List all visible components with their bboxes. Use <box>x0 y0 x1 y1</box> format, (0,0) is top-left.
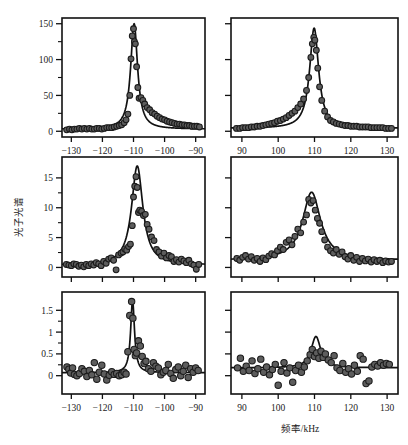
data-point <box>69 365 75 371</box>
data-point <box>129 33 135 39</box>
panel-middle-left: 051015 <box>44 157 206 282</box>
data-point <box>137 343 143 349</box>
data-point <box>301 219 307 225</box>
multi-panel-spectrum-chart: −130−120−110−100−90050100150901001101201… <box>0 0 408 445</box>
data-point <box>304 88 310 94</box>
data-point <box>143 358 149 364</box>
data-point <box>123 371 129 377</box>
x-tick-label: −90 <box>188 146 203 156</box>
data-point <box>315 65 321 71</box>
data-point <box>123 117 129 123</box>
data-point <box>389 259 395 265</box>
panel-bottom-left: −130−120−110−100−9000.511.5 <box>41 292 205 413</box>
data-point <box>310 198 316 204</box>
y-tick-label: 1.5 <box>41 306 53 316</box>
data-point <box>308 55 314 61</box>
x-tick-label: 120 <box>344 403 359 413</box>
data-point <box>328 359 334 365</box>
data-point <box>131 26 137 32</box>
x-tick-label: 100 <box>271 403 286 413</box>
data-point <box>351 362 357 368</box>
data-point <box>322 108 328 114</box>
data-point <box>313 47 319 53</box>
data-point <box>128 298 134 304</box>
data-point <box>132 41 138 47</box>
data-point <box>180 368 186 374</box>
panel-bottom-right: 90100110120130 <box>225 292 398 413</box>
data-point <box>142 211 148 217</box>
data-point <box>331 352 337 358</box>
x-tick-label: −110 <box>124 146 144 156</box>
data-point <box>301 96 307 102</box>
y-tick-label: 50 <box>44 91 54 101</box>
data-point <box>195 367 201 373</box>
y-tick-label: 5 <box>48 233 53 243</box>
y-tick-label: 0 <box>48 263 53 273</box>
figure-container: −130−120−110−100−90050100150901001101201… <box>0 0 408 445</box>
data-point <box>94 376 100 382</box>
data-point <box>135 85 141 91</box>
x-tick-label: −100 <box>155 146 175 156</box>
data-point <box>319 229 325 235</box>
data-point <box>319 98 325 104</box>
y-tick-label: 0 <box>48 127 53 137</box>
y-tick-label: 15 <box>44 173 54 183</box>
data-point <box>304 358 310 364</box>
data-point <box>298 230 304 236</box>
data-point <box>170 375 176 381</box>
data-points <box>64 298 202 383</box>
x-tick-label: −130 <box>62 146 82 156</box>
data-point <box>258 356 264 362</box>
data-point <box>389 125 395 131</box>
x-tick-label: 90 <box>237 403 247 413</box>
data-point <box>249 358 255 364</box>
data-point <box>111 257 117 263</box>
data-point <box>146 226 152 232</box>
y-tick-label: 10 <box>44 203 54 213</box>
panel-frame <box>231 292 398 394</box>
panel-top-left: −130−120−110−100−90050100150 <box>39 18 205 156</box>
data-point <box>125 349 131 355</box>
data-point <box>234 365 240 371</box>
data-point <box>360 356 366 362</box>
data-point <box>255 366 261 372</box>
data-point <box>165 361 171 367</box>
data-point <box>125 111 131 117</box>
data-point <box>322 351 328 357</box>
data-point <box>196 262 202 268</box>
data-point <box>128 56 134 62</box>
panel-top-right: 90100110120130 <box>225 18 398 156</box>
data-point <box>304 212 310 218</box>
data-point <box>99 362 105 368</box>
data-point <box>151 238 157 244</box>
data-point <box>133 174 139 180</box>
data-point <box>91 359 97 365</box>
data-point <box>148 368 154 374</box>
x-tick-label: −100 <box>155 403 175 413</box>
y-tick-label: 1 <box>48 328 53 338</box>
y-axis-label: 光子光谱 <box>13 197 24 237</box>
data-point <box>272 361 278 367</box>
data-points <box>64 26 203 133</box>
data-point <box>354 368 360 374</box>
data-point <box>312 37 318 43</box>
x-axis-label: 频率/kHz <box>281 423 319 434</box>
x-tick-label: −90 <box>188 403 203 413</box>
data-point <box>129 223 135 229</box>
fit-curve <box>62 166 205 264</box>
y-tick-label: 0 <box>48 371 53 381</box>
data-point <box>306 75 312 81</box>
data-point <box>292 234 298 240</box>
data-point <box>134 185 140 191</box>
fit-curve <box>62 300 205 372</box>
y-tick-label: 150 <box>39 19 54 29</box>
data-point <box>127 93 133 99</box>
data-point <box>113 267 119 273</box>
data-point <box>275 382 281 388</box>
data-point <box>289 242 295 248</box>
y-tick-label: 0.5 <box>41 349 53 359</box>
x-tick-label: −110 <box>124 403 144 413</box>
data-points <box>63 174 201 273</box>
x-tick-label: 110 <box>308 403 322 413</box>
data-points <box>234 196 394 265</box>
